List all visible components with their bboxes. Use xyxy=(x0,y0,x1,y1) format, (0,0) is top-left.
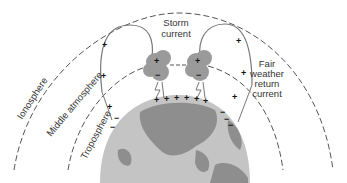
storm-current-label-2: current xyxy=(161,28,191,39)
return-current-right-arrow xyxy=(238,85,252,122)
surface-plus-2: + xyxy=(164,94,169,104)
ionosphere-plus-left-1: + xyxy=(102,40,107,50)
earth-globe xyxy=(100,95,250,183)
fair-weather-label-4: current xyxy=(252,88,282,99)
atmospheric-circuit-diagram: + − + − + + + + + + + + + + + + − − − − … xyxy=(0,0,347,183)
storm-current-label-1: Storm xyxy=(163,17,188,28)
surface-plus-6: + xyxy=(203,96,208,106)
ionosphere-plus-right-1: + xyxy=(236,36,241,46)
cloud-left-minus: − xyxy=(155,70,160,80)
ionosphere-plus-right-2: + xyxy=(241,68,246,78)
surface-plus-4: + xyxy=(184,93,189,103)
troposphere-plus-left: + xyxy=(107,102,112,112)
current-loop-left xyxy=(101,25,153,92)
troposphere-plus-right: + xyxy=(232,92,237,102)
surface-minus-left-2: − xyxy=(110,122,115,132)
surface-plus-1: + xyxy=(154,95,159,105)
surface-plus-3: + xyxy=(174,93,179,103)
surface-minus-right-3: − xyxy=(228,120,233,130)
surface-plus-5: + xyxy=(194,94,199,104)
cloud-right-minus: − xyxy=(196,70,201,80)
cloud-left-plus: + xyxy=(154,56,159,66)
cloud-right-plus: + xyxy=(195,56,200,66)
